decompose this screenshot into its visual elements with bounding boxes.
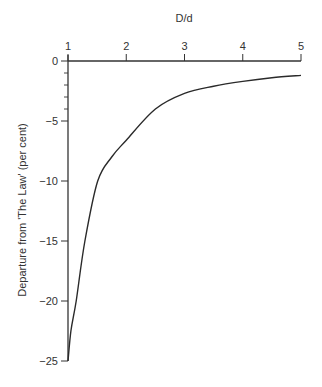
y-tick-label: −10	[39, 175, 58, 187]
x-axis: 12345	[65, 40, 304, 61]
x-tick-label: 5	[298, 40, 304, 52]
y-axis-title: Departure from 'The Law' (per cent)	[16, 123, 28, 297]
x-tick-label: 3	[181, 40, 187, 52]
x-axis-title: D/d	[175, 12, 192, 24]
y-tick-label: −25	[39, 355, 58, 367]
y-tick-label: −15	[39, 235, 58, 247]
x-tick-label: 2	[123, 40, 129, 52]
x-tick-label: 1	[65, 40, 71, 52]
y-tick-label: −5	[45, 115, 58, 127]
y-tick-label: −20	[39, 295, 58, 307]
y-axis: 0−5−10−15−20−25	[39, 55, 68, 367]
x-tick-label: 4	[240, 40, 246, 52]
chart: 12345 0−5−10−15−20−25 D/d Departure from…	[0, 0, 322, 387]
y-tick-label: 0	[52, 55, 58, 67]
data-curve	[68, 75, 301, 361]
